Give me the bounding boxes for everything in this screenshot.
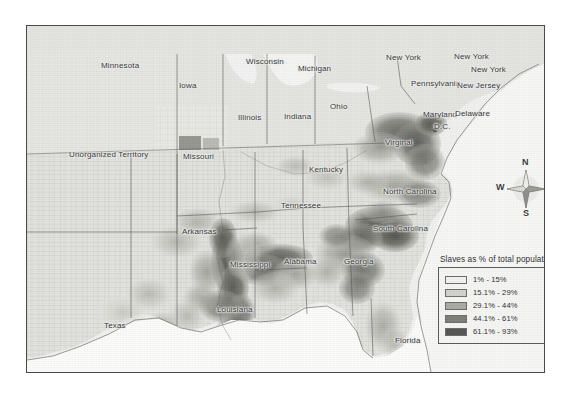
map-label-new-york-center: New York: [454, 52, 489, 61]
map-legend: Slaves as % of total population 1% - 15%…: [438, 255, 545, 344]
compass-south-label: S: [523, 208, 529, 218]
map-label-new-york-west: New York: [386, 53, 421, 62]
map-label-alabama: Alabama: [284, 257, 317, 266]
legend-row: 44.1% - 61%: [445, 312, 541, 325]
compass-west-label: W: [496, 182, 505, 192]
legend-row: 61.1% - 93%: [445, 325, 541, 338]
map-label-pennsylvania: Pennsylvania: [411, 79, 460, 88]
legend-swatch: [445, 315, 467, 323]
map-label-ohio: Ohio: [330, 102, 348, 111]
legend-swatch: [445, 328, 467, 336]
map-label-tennessee: Tennessee: [281, 201, 321, 210]
map-label-indiana: Indiana: [284, 112, 311, 121]
legend-swatch: [445, 276, 467, 284]
map-label-minnesota: Minnesota: [101, 61, 139, 70]
map-label-mississippi: Mississippi: [230, 260, 270, 269]
screenshot-root: MinnesotaWisconsinMichiganNew YorkNew Yo…: [0, 0, 561, 396]
map-label-arkansas: Arkansas: [182, 227, 217, 236]
map-label-north-carolina: North Carolina: [383, 187, 437, 196]
map-label-texas: Texas: [104, 321, 126, 330]
legend-row: 1% - 15%: [445, 273, 541, 286]
map-label-new-jersey: New Jersey: [457, 81, 500, 90]
legend-title: Slaves as % of total population: [440, 255, 545, 264]
map-label-iowa: Iowa: [179, 81, 197, 90]
map-label-south-carolina: South Carolina: [373, 224, 428, 233]
legend-label: 1% - 15%: [473, 275, 507, 284]
map-label-missouri: Missouri: [183, 152, 214, 161]
compass-north-label: N: [522, 157, 529, 167]
map-label-unorganized-territory: Unorganized Territory: [69, 150, 148, 159]
map-label-delaware: Delaware: [455, 109, 490, 118]
map-label-louisiana: Louisiana: [217, 305, 253, 314]
map-label-wisconsin: Wisconsin: [246, 57, 284, 66]
legend-label: 61.1% - 93%: [473, 327, 518, 336]
legend-label: 44.1% - 61%: [473, 314, 518, 323]
legend-swatch: [445, 302, 467, 310]
legend-row: 29.1% - 44%: [445, 299, 541, 312]
legend-swatch: [445, 289, 467, 297]
map-label-michigan: Michigan: [298, 64, 331, 73]
legend-row: 15.1% - 29%: [445, 286, 541, 299]
map-label-new-york-east: New York: [471, 65, 506, 74]
map-frame: MinnesotaWisconsinMichiganNew YorkNew Yo…: [26, 25, 545, 373]
compass-rose: N S E W: [495, 157, 545, 221]
legend-box: 1% - 15%15.1% - 29%29.1% - 44%44.1% - 61…: [438, 267, 545, 344]
map-label-florida: Florida: [395, 336, 421, 345]
map-label-virginia: Virginal: [385, 138, 413, 147]
legend-label: 15.1% - 29%: [473, 288, 518, 297]
map-label-maryland: Maryland: [423, 110, 457, 119]
map-label-georgia: Georgia: [344, 257, 374, 266]
map-label-illinois: Illinois: [238, 113, 261, 122]
map-label-kentucky: Kentucky: [309, 165, 343, 174]
map-label-dc: D.C.: [434, 122, 451, 131]
legend-label: 29.1% - 44%: [473, 301, 518, 310]
